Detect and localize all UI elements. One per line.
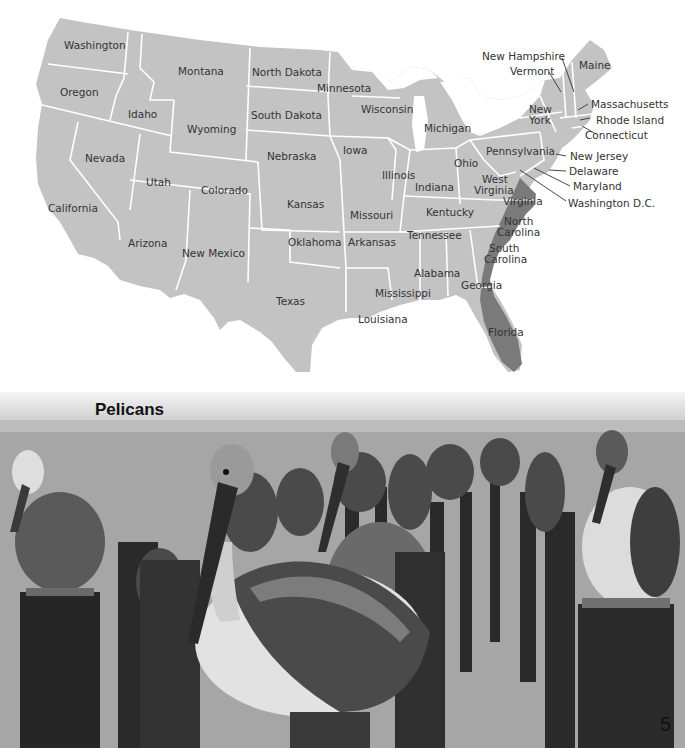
label-south-carolina-line2: Carolina (484, 254, 527, 265)
label-new-york-line2: York (529, 115, 551, 126)
label-michigan: Michigan (424, 123, 471, 134)
label-new-mexico: New Mexico (182, 248, 245, 259)
label-minnesota: Minnesota (317, 83, 371, 94)
label-north-carolina-line2: Carolina (497, 227, 540, 238)
label-arkansas: Arkansas (348, 237, 396, 248)
label-tennessee: Tennessee (407, 230, 462, 241)
label-pennsylvania: Pennsylvania (486, 146, 555, 157)
label-montana: Montana (178, 66, 224, 77)
label-new-jersey: New Jersey (570, 151, 628, 162)
label-new-hampshire: New Hampshire (482, 51, 565, 62)
label-washington-dc: Washington D.C. (568, 198, 655, 209)
label-massachusetts: Massachusetts (591, 99, 669, 110)
label-colorado: Colorado (201, 185, 248, 196)
label-ohio: Ohio (454, 158, 478, 169)
pelicans-photo: Pelicans 5 (0, 392, 685, 748)
label-washington: Washington (64, 40, 126, 51)
label-iowa: Iowa (343, 145, 368, 156)
label-south-dakota: South Dakota (251, 110, 322, 121)
label-kansas: Kansas (287, 199, 324, 210)
label-arizona: Arizona (128, 238, 167, 249)
label-california: California (48, 203, 98, 214)
label-vermont: Vermont (510, 66, 554, 77)
label-maine: Maine (579, 60, 611, 71)
us-map: Washington Oregon California Idaho Nevad… (0, 0, 685, 390)
label-wisconsin: Wisconsin (361, 104, 413, 115)
label-utah: Utah (146, 177, 171, 188)
label-illinois: Illinois (382, 170, 415, 181)
label-virginia: Virginia (503, 196, 543, 207)
label-mississippi: Mississippi (375, 288, 431, 299)
label-missouri: Missouri (350, 210, 393, 221)
label-rhode-island: Rhode Island (596, 115, 664, 126)
label-idaho: Idaho (128, 109, 157, 120)
label-west-virginia-line2: Virginia (474, 185, 514, 196)
label-alabama: Alabama (414, 268, 460, 279)
label-florida: Florida (488, 327, 524, 338)
label-maryland: Maryland (573, 181, 622, 192)
label-louisiana: Louisiana (358, 314, 408, 325)
label-texas: Texas (276, 296, 305, 307)
label-north-dakota: North Dakota (252, 67, 322, 78)
label-connecticut: Connecticut (585, 130, 648, 141)
label-nevada: Nevada (85, 153, 125, 164)
photo-caption-title: Pelicans (95, 400, 164, 420)
label-delaware: Delaware (569, 166, 618, 177)
page-number: 5 (660, 713, 671, 736)
label-georgia: Georgia (461, 280, 502, 291)
label-indiana: Indiana (415, 182, 454, 193)
label-wyoming: Wyoming (187, 124, 236, 135)
pelicans-photo-illustration (0, 392, 685, 748)
label-nebraska: Nebraska (267, 151, 317, 162)
label-kentucky: Kentucky (426, 207, 474, 218)
label-oregon: Oregon (60, 87, 99, 98)
label-oklahoma: Oklahoma (288, 237, 341, 248)
